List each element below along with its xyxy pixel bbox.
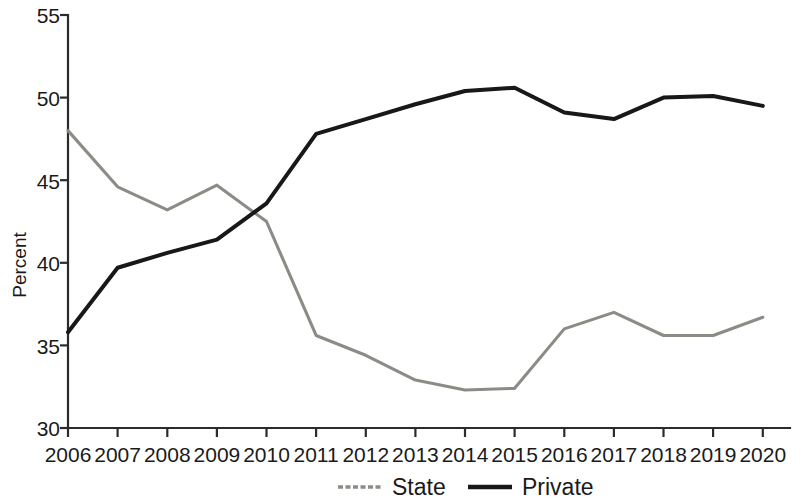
x-tick-label: 2006 xyxy=(45,443,92,466)
y-tick-label: 40 xyxy=(37,252,60,275)
x-tick-label: 2011 xyxy=(294,443,339,466)
x-tick-label: 2013 xyxy=(392,443,439,466)
y-tick-label: 55 xyxy=(37,4,60,27)
y-tick-label: 30 xyxy=(37,417,60,440)
x-tick-label: 2016 xyxy=(541,443,588,466)
x-tick-label: 2008 xyxy=(144,443,191,466)
x-axis-tick-labels: 2006 2007 2008 2009 2010 2011 2012 2013 … xyxy=(45,443,787,466)
y-tick-label: 35 xyxy=(37,335,60,358)
x-tick-label: 2007 xyxy=(94,443,141,466)
line-chart-plot: Percent 55 50 45 40 35 30 xyxy=(0,0,812,503)
chart-figure: Percent 55 50 45 40 35 30 xyxy=(0,0,812,503)
legend-label-state: State xyxy=(392,474,446,500)
x-tick-label: 2020 xyxy=(739,443,786,466)
y-axis-label: Percent xyxy=(9,232,30,298)
x-axis-ticks xyxy=(68,428,763,437)
x-tick-label: 2010 xyxy=(243,443,290,466)
y-tick-label: 45 xyxy=(37,170,60,193)
x-tick-label: 2019 xyxy=(690,443,737,466)
x-tick-label: 2015 xyxy=(491,443,538,466)
y-axis-label-group: Percent xyxy=(9,232,30,298)
series-line-state xyxy=(68,131,763,390)
y-axis-ticks xyxy=(60,15,68,428)
x-tick-label: 2017 xyxy=(591,443,638,466)
series-line-private xyxy=(68,88,763,332)
x-tick-label: 2018 xyxy=(640,443,687,466)
x-tick-label: 2012 xyxy=(342,443,389,466)
chart-legend: State Private xyxy=(338,474,594,500)
x-tick-label: 2009 xyxy=(194,443,241,466)
y-axis-tick-labels: 55 50 45 40 35 30 xyxy=(37,4,60,440)
legend-label-private: Private xyxy=(522,474,594,500)
y-tick-label: 50 xyxy=(37,87,60,110)
x-tick-label: 2014 xyxy=(442,443,489,466)
